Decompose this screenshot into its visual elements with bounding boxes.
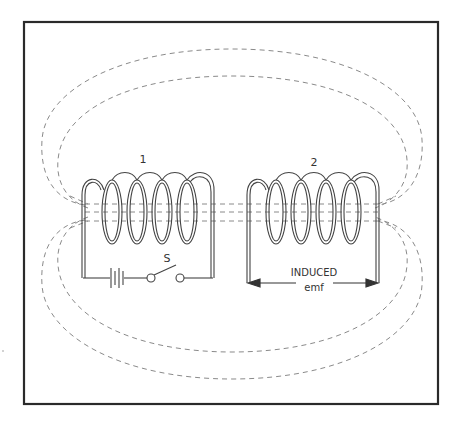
emf-label: emf	[304, 282, 324, 293]
coil-1-label: 1	[140, 153, 147, 166]
switch-label: S	[164, 252, 171, 265]
induction-diagram: 1 S 2	[0, 0, 459, 422]
magnetic-field-lines	[42, 49, 422, 379]
stray-dot	[2, 350, 4, 352]
switch-icon	[147, 265, 184, 282]
primary-circuit	[83, 265, 213, 288]
field-line-outer-bottom	[42, 220, 422, 379]
induced-label: INDUCED	[291, 267, 338, 278]
coil-1	[82, 173, 214, 279]
coil-2-label: 2	[311, 156, 318, 169]
battery-icon	[111, 268, 123, 288]
